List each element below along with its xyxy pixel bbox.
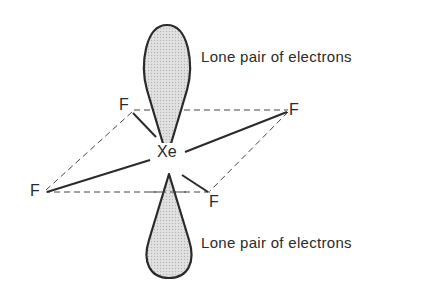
top-lone-pair-label: Lone pair of electrons xyxy=(201,48,352,65)
top-lone-pair-lobe xyxy=(144,25,190,157)
fluorine-atom-label-bottom-left: F xyxy=(30,182,40,200)
bottom-lone-pair-label: Lone pair of electrons xyxy=(201,234,352,251)
xenon-atom-label: Xe xyxy=(156,143,178,161)
fluorine-atom-label-top-right: F xyxy=(289,101,299,119)
fluorine-atom-label-bottom-right: F xyxy=(209,193,219,211)
fluorine-atom-label-top-left: F xyxy=(119,96,129,114)
bottom-lone-pair-lobe xyxy=(146,174,191,278)
